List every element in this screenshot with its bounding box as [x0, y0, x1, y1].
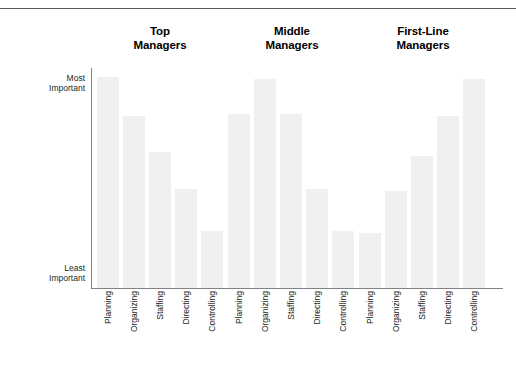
top-rule-divider: [0, 8, 516, 9]
x-label-text: Directing: [306, 290, 328, 360]
x-label-middle-managers-directing: Directing: [306, 290, 328, 360]
bar-first-line-managers-planning: [359, 233, 381, 288]
bar-middle-managers-staffing: [280, 114, 302, 288]
y-axis-label-most-important-line2: Important: [19, 83, 85, 93]
group-heading-first-line-managers-line1: First-Line: [397, 25, 448, 37]
group-heading-middle-managers-line1: Middle: [274, 25, 310, 37]
x-label-text: Staffing: [411, 290, 433, 360]
bar-middle-managers-directing: [306, 189, 328, 288]
x-label-text: Controlling: [332, 290, 354, 360]
x-label-top-managers-staffing: Staffing: [149, 290, 171, 360]
x-label-first-line-managers-organizing: Organizing: [385, 290, 407, 360]
bar-top-managers-directing: [175, 189, 197, 288]
bar-first-line-managers-staffing: [411, 156, 433, 288]
x-label-top-managers-planning: Planning: [97, 290, 119, 360]
bar-top-managers-controlling: [201, 231, 223, 288]
x-label-middle-managers-controlling: Controlling: [332, 290, 354, 360]
plot-area: [91, 68, 503, 288]
x-label-text: Organizing: [123, 290, 145, 360]
x-label-first-line-managers-planning: Planning: [359, 290, 381, 360]
x-label-text: Planning: [228, 290, 250, 360]
x-label-text: Planning: [97, 290, 119, 360]
x-label-middle-managers-planning: Planning: [228, 290, 250, 360]
y-axis-label-most-important-line1: Most: [67, 73, 85, 83]
bar-first-line-managers-directing: [437, 116, 459, 288]
y-axis-label-least-important-line1: Least: [64, 263, 85, 273]
group-heading-top-managers: Top Managers: [85, 24, 235, 52]
x-label-text: Staffing: [280, 290, 302, 360]
bar-middle-managers-controlling: [332, 231, 354, 288]
y-axis-label-least-important: Least Important: [19, 263, 85, 283]
x-label-text: Directing: [437, 290, 459, 360]
x-label-middle-managers-organizing: Organizing: [254, 290, 276, 360]
x-label-top-managers-directing: Directing: [175, 290, 197, 360]
x-label-middle-managers-staffing: Staffing: [280, 290, 302, 360]
x-axis-line: [91, 288, 503, 289]
x-label-text: Controlling: [463, 290, 485, 360]
x-label-top-managers-controlling: Controlling: [201, 290, 223, 360]
x-label-text: Organizing: [385, 290, 407, 360]
bar-top-managers-staffing: [149, 152, 171, 288]
x-label-first-line-managers-directing: Directing: [437, 290, 459, 360]
bar-middle-managers-planning: [228, 114, 250, 288]
bar-top-managers-planning: [97, 77, 119, 288]
figure-container: Top Managers Middle Managers First-Line …: [0, 0, 516, 366]
group-heading-first-line-managers: First-Line Managers: [348, 24, 498, 52]
group-heading-middle-managers: Middle Managers: [217, 24, 367, 52]
x-label-top-managers-organizing: Organizing: [123, 290, 145, 360]
bar-middle-managers-organizing: [254, 79, 276, 288]
x-label-text: Planning: [359, 290, 381, 360]
y-axis-label-least-important-line2: Important: [19, 273, 85, 283]
x-label-first-line-managers-controlling: Controlling: [463, 290, 485, 360]
group-heading-top-managers-line2: Managers: [85, 38, 235, 52]
group-heading-middle-managers-line2: Managers: [217, 38, 367, 52]
x-axis-category-labels: PlanningOrganizingStaffingDirectingContr…: [91, 290, 503, 364]
y-axis-label-most-important: Most Important: [19, 73, 85, 93]
x-label-text: Controlling: [201, 290, 223, 360]
x-label-text: Directing: [175, 290, 197, 360]
bar-first-line-managers-controlling: [463, 79, 485, 288]
bar-first-line-managers-organizing: [385, 191, 407, 288]
x-label-text: Organizing: [254, 290, 276, 360]
bar-top-managers-organizing: [123, 116, 145, 288]
x-label-text: Staffing: [149, 290, 171, 360]
group-heading-top-managers-line1: Top: [150, 25, 170, 37]
x-label-first-line-managers-staffing: Staffing: [411, 290, 433, 360]
group-heading-first-line-managers-line2: Managers: [348, 38, 498, 52]
